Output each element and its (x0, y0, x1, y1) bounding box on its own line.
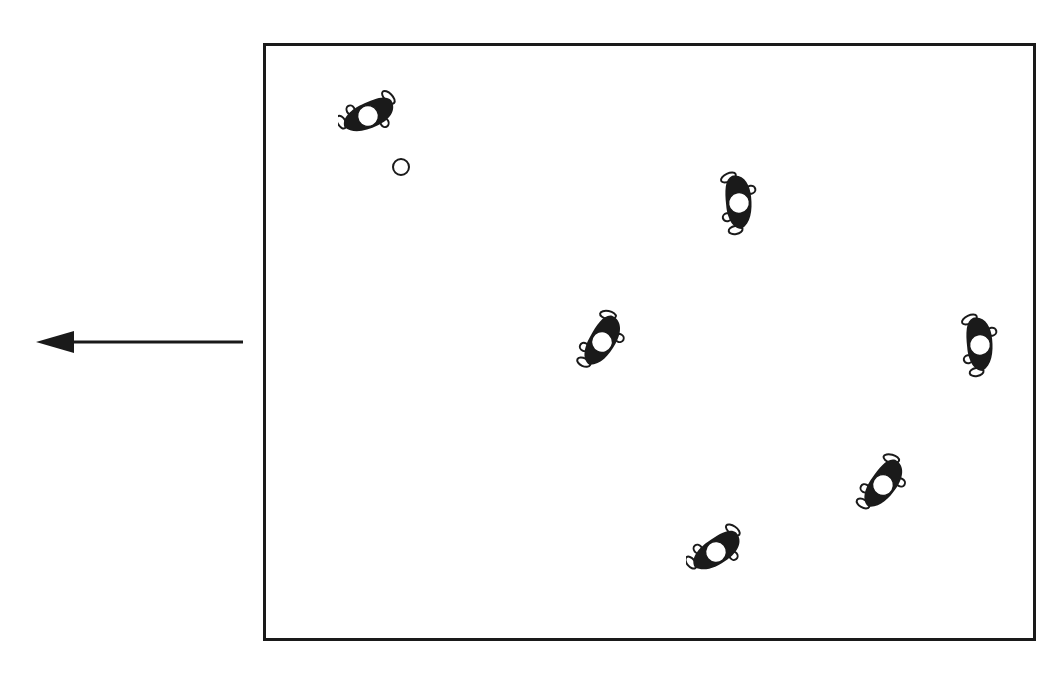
direction-arrow-icon (0, 0, 1052, 673)
player-2-icon (709, 168, 769, 238)
player-5-icon (853, 450, 913, 520)
player-4-icon (950, 310, 1010, 380)
diagram-canvas (0, 0, 1052, 673)
ball-icon (392, 158, 410, 176)
player-1-icon (338, 81, 398, 151)
player-3-icon (572, 307, 632, 377)
player-6-icon (686, 517, 746, 587)
